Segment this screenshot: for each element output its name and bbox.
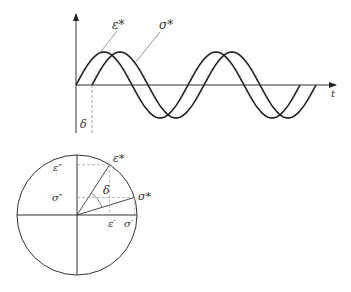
phase-lag-diagram: ε* σ* t δ ε* σ* ε″ σ″ ε′ σ′ δ (0, 0, 351, 292)
stress-vector-label: σ* (138, 190, 152, 203)
phasor-plot: ε* σ* ε″ σ″ ε′ σ′ δ (17, 152, 152, 275)
phase-angle-arc (91, 193, 102, 207)
stress-real-label: σ′ (124, 218, 134, 229)
stress-leader (135, 32, 160, 63)
phase-angle-label: δ (103, 184, 110, 197)
strain-vector-label: ε* (113, 152, 125, 165)
time-axis-label: t (331, 88, 336, 99)
stress-curve-label: σ* (159, 18, 173, 32)
strain-imag-label: ε″ (53, 162, 62, 173)
phase-lag-label: δ (80, 118, 87, 131)
strain-real-label: ε′ (108, 218, 116, 229)
strain-leader (99, 31, 117, 54)
stress-imag-label: σ″ (52, 192, 63, 203)
strain-curve-label: ε* (112, 18, 124, 32)
stress-vector (77, 197, 134, 215)
time-plot: ε* σ* t δ (76, 14, 336, 133)
